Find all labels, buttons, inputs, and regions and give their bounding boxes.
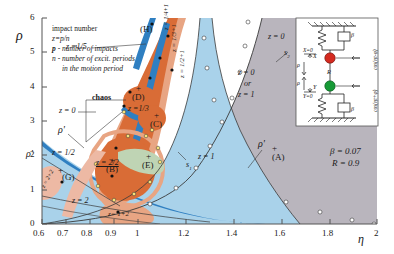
inset-label-rho-bottom: ρ [297, 80, 300, 86]
param-R: R = 0.9 [332, 158, 359, 168]
region-marker-D: + [136, 83, 141, 93]
y-axis-label: ρ [16, 28, 23, 44]
zone-z-one-plus-two: z= 1+2 [108, 210, 129, 218]
inset-label-X-zero: X=0 [303, 47, 313, 53]
curve-label-s1: s1 [186, 160, 192, 171]
region-marker-E: + [146, 151, 151, 161]
inset-label-beta-top: β [351, 32, 354, 38]
inset-label-R: R [327, 68, 331, 75]
inset-label-excitation-top: cos(ητ-φ) [372, 49, 378, 70]
region-label-H: (H) [140, 24, 153, 34]
zone-z-one-half: z = 1/2 [52, 148, 75, 157]
inset-label-X: X [313, 53, 317, 59]
x-tick-2: 0.8 [81, 228, 92, 238]
y-tick-5: 5 [30, 46, 35, 56]
curve-label-s2: s2 [284, 48, 290, 59]
x-tick-6: 1.4 [226, 228, 237, 238]
legend-title: impact number [52, 24, 97, 33]
inset-mass-top [325, 53, 335, 63]
region-label-D: (D) [132, 92, 145, 102]
inset-frame [296, 18, 378, 126]
inset-mass-bottom [325, 81, 335, 91]
y-tick-1: 1 [30, 184, 35, 194]
zone-z-two: z = 2 [72, 196, 89, 205]
region-marker-B: + [110, 155, 115, 165]
y-tick-3: 3 [30, 115, 35, 125]
region-label-B: (B) [106, 164, 118, 174]
region-label-E: (E) [142, 160, 154, 170]
region-marker-A: + [272, 143, 277, 153]
zone-z0-right: z = 0 [268, 32, 285, 41]
region-label-A: (A) [272, 152, 285, 162]
figure-root: ρ η 0 1 2 3 4 5 6 0.6 0.7 0.8 0.9 1 1.2 … [0, 0, 394, 254]
curve-label-rho-prime-mid: ρ' [26, 148, 33, 159]
param-beta: β = 0.07 [330, 146, 361, 156]
zone-chaos: chaos [92, 93, 111, 102]
zone-z-half-plus-one: z = 1/2+1 [178, 50, 186, 78]
legend-line-n: n - number of excit. periods [52, 54, 135, 63]
x-tick-5: 1.2 [178, 228, 189, 238]
curve-label-rho-prime-left: ρ' [58, 124, 65, 135]
zone-z-third-plus-one: z = 1/3+1 [170, 24, 178, 52]
curve-s2-sub: 2 [287, 54, 290, 59]
zone-z-one: z = 1 [198, 152, 215, 161]
zone-z0-or-z1-line2: or [244, 79, 251, 88]
inset-label-Y: Y [313, 84, 316, 90]
region-marker-G: + [58, 165, 63, 175]
x-tick-7: 1.6 [274, 228, 285, 238]
region-label-C: (C) [150, 119, 162, 129]
curve-label-rho-prime-right: ρ' [258, 138, 265, 149]
inset-label-Y-zero: Y=0 [303, 93, 313, 99]
inset-label-excitation-bottom: cos(ητ+φ) [372, 90, 378, 112]
x-tick-1: 0.7 [57, 228, 68, 238]
zone-z-one-third: z =1/3 [128, 104, 149, 113]
zone-z0-or-z1-line1: z = 0 [238, 68, 255, 77]
zone-z-one-fifth: z =1/5 [66, 42, 87, 51]
region-marker-C: + [154, 110, 159, 120]
x-tick-8: 1.8 [322, 228, 333, 238]
y-tick-4: 4 [30, 81, 35, 91]
legend-line-period: in the motion period [62, 64, 123, 73]
inset-label-beta-bottom: β [351, 106, 354, 112]
x-tick-9: 2 [374, 228, 379, 238]
zone-z0-left: z = 0 [59, 106, 76, 115]
zone-z-quarter-plus-one: z = 1/4+1 [162, 4, 169, 30]
y-tick-0: 0 [30, 218, 35, 228]
curve-s1-sub: 1 [189, 166, 192, 171]
x-tick-0: 0.6 [33, 228, 44, 238]
inset-label-rho-top: ρ [297, 62, 300, 68]
x-axis-label: η [358, 232, 364, 247]
inset-schematic [296, 18, 378, 126]
region-label-G: (G) [62, 172, 75, 182]
x-tick-4: 1 [135, 228, 140, 238]
x-tick-3: 0.9 [105, 228, 116, 238]
zone-z0-or-z1-line3: z = 1 [238, 90, 255, 99]
y-tick-6: 6 [30, 12, 35, 22]
